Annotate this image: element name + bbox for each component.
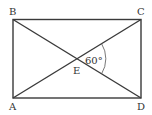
label-b: B [9, 6, 16, 17]
label-e: E [73, 65, 80, 76]
label-c: C [137, 6, 145, 17]
label-d: D [137, 101, 145, 112]
label-a: A [8, 101, 17, 112]
angle-label: 60° [85, 55, 103, 66]
rectangle-diagram: B C A D E 60° [0, 0, 152, 115]
